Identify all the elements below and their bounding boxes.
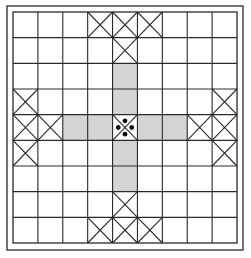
- shaded-cell: [113, 140, 138, 166]
- shaded-cell: [113, 89, 138, 115]
- shaded-cell: [88, 115, 113, 141]
- shaded-cell: [63, 115, 88, 141]
- center-dot-icon: [116, 125, 121, 130]
- game-board: [0, 0, 251, 258]
- center-dot-icon: [123, 118, 128, 123]
- center-dot-icon: [123, 132, 128, 137]
- shaded-cell: [113, 63, 138, 89]
- center-dot-icon: [129, 125, 134, 130]
- shaded-cell: [113, 166, 138, 192]
- shaded-cell: [162, 115, 187, 141]
- shaded-cell: [137, 115, 162, 141]
